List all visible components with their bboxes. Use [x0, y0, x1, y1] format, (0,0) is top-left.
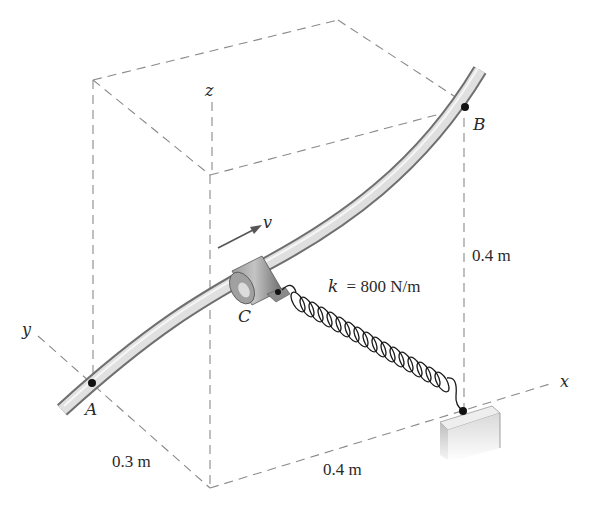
axis-z-label: z — [204, 81, 214, 100]
point-a-marker — [88, 379, 96, 387]
curved-rod — [62, 68, 480, 410]
label-c: C — [238, 306, 251, 326]
dimension-y-offset: 0.3 m — [112, 452, 151, 471]
fixed-block — [440, 406, 500, 462]
dimension-z-height: 0.4 m — [472, 246, 511, 265]
axis-x-label: x — [560, 372, 569, 391]
velocity-arrow — [218, 225, 262, 248]
velocity-label: v — [263, 213, 272, 232]
label-b: B — [472, 114, 486, 134]
spring-anchor-point — [459, 407, 467, 415]
label-a: A — [83, 399, 97, 419]
dimension-x-offset: 0.4 m — [323, 460, 362, 479]
axis-y-label: y — [21, 320, 32, 339]
point-b-marker — [461, 103, 469, 111]
collar-rod-spring-diagram: A B v C — [0, 0, 595, 517]
spring — [280, 285, 463, 411]
spring-constant-label: k = 800 N/m — [328, 276, 420, 296]
